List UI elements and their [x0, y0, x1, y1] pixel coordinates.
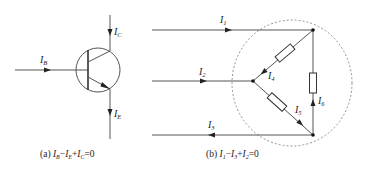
label-ib: IB [39, 54, 47, 66]
label-i2: I2 [198, 66, 206, 78]
node-bottom [311, 133, 315, 137]
i6-arrow-icon [311, 99, 316, 106]
node-left [251, 79, 255, 83]
node-top [311, 28, 315, 32]
label-i1: I1 [219, 14, 227, 26]
label-i4: I4 [267, 70, 275, 82]
caption-b: (b) I1−I3+I2=0 [206, 149, 259, 160]
resistor-r4 [275, 44, 295, 62]
i2-arrow-icon [200, 79, 207, 84]
label-i6: I6 [317, 95, 325, 107]
caption-a: (a) IB−IE+IC=0 [40, 149, 95, 160]
transistor-figure: IB IC IE (a) IB−IE+IC=0 [15, 15, 122, 160]
emitter-arrow-icon [101, 82, 111, 89]
i3-arrow-icon [208, 133, 215, 138]
i1-arrow-icon [225, 28, 232, 33]
label-i3: I3 [207, 119, 215, 131]
kcl-diagram: IB IC IE (a) IB−IE+IC=0 I1 I2 [0, 0, 367, 170]
resistor-r5 [267, 93, 287, 112]
emitter-current-arrow-icon [108, 109, 113, 116]
delta-network-figure: I1 I2 I3 I4 I5 I6 (b) I1−I3+I2=0 [152, 14, 352, 160]
collector-lead [88, 51, 110, 62]
label-i5: I5 [294, 104, 302, 116]
closed-surface-boundary [232, 20, 352, 146]
collector-current-arrow-icon [108, 29, 113, 36]
label-ic: IC [113, 26, 122, 38]
label-ie: IE [113, 108, 121, 120]
base-current-arrow-icon [44, 68, 51, 73]
resistor-r6 [310, 73, 317, 93]
